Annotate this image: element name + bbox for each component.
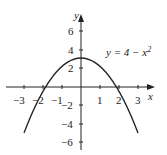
y-tick-label: 6 [68,25,74,37]
y-axis-label: y [73,9,79,21]
parabola-chart: −3 −2 −1 1 2 3 6 4 2 −2 −4 −6 x y y = 4 … [0,0,167,155]
y-axis-arrow-icon [78,14,84,22]
x-axis-label: x [147,90,153,102]
y-tick-label: −2 [61,99,73,111]
equation-label: y = 4 − x2 [105,45,151,58]
y-tick-label: 2 [68,62,74,74]
y-tick-label: −4 [61,118,73,130]
x-tick-label: 1 [97,94,103,106]
y-tick-label: −6 [61,136,73,148]
x-tick-label: 3 [135,94,141,106]
x-tick-label: −2 [32,94,44,106]
x-tick-label: −3 [13,94,25,106]
y-tick-label: 4 [68,44,74,56]
x-tick-label: 2 [116,94,122,106]
